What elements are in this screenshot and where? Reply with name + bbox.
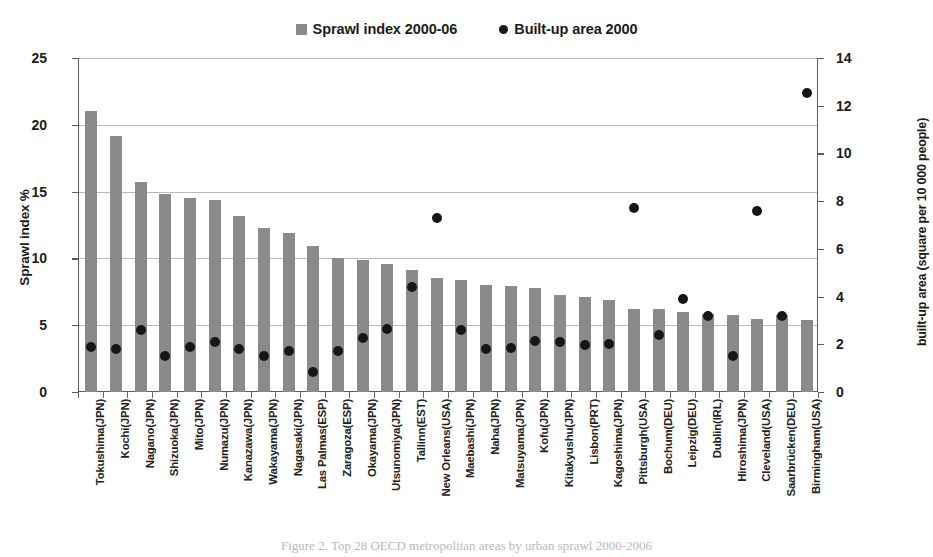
x-axis-tick-mark: [152, 392, 153, 398]
x-axis-tick-mark: [201, 392, 202, 398]
bar: [702, 314, 714, 392]
x-axis-tick-mark: [473, 392, 474, 398]
y-axis-right-tick-label: 8: [836, 194, 876, 208]
bar: [258, 228, 270, 392]
data-point-dot: [86, 342, 96, 352]
x-axis-tick-mark: [374, 392, 375, 398]
bar: [159, 194, 171, 392]
bar: [653, 309, 665, 392]
x-axis-tick-mark: [793, 392, 794, 398]
y-axis-left-tick-label: 15: [7, 185, 47, 199]
x-axis-category-label: New Orleans(USA): [441, 399, 452, 496]
y-axis-right-tick-mark: [818, 106, 824, 107]
legend-item-built-up-area: Built-up area 2000: [499, 22, 637, 37]
y-axis-right-tick-label: 0: [836, 385, 876, 399]
bar: [283, 233, 295, 392]
legend-label-sprawl-index: Sprawl index 2000-06: [313, 22, 458, 37]
y-axis-right-tick-mark: [818, 153, 824, 154]
x-axis-tick-mark: [423, 392, 424, 398]
x-axis-tick-mark: [769, 392, 770, 398]
bar: [233, 216, 245, 392]
data-point-dot: [432, 213, 442, 223]
y-axis-left-tick-label: 20: [7, 118, 47, 132]
data-point-dot: [777, 311, 787, 321]
data-point-dot: [678, 294, 688, 304]
x-axis-tick-mark: [596, 392, 597, 398]
bar: [480, 285, 492, 392]
legend-label-built-up-area: Built-up area 2000: [514, 22, 637, 37]
data-point-dot: [185, 342, 195, 352]
data-point-dot: [703, 311, 713, 321]
x-axis-tick-mark: [645, 392, 646, 398]
x-axis-category-label: Nagasaki(JPN): [293, 399, 304, 476]
y-axis-right-tick-mark: [818, 297, 824, 298]
y-axis-left-tick-label: 25: [7, 51, 47, 65]
bar: [184, 198, 196, 392]
bar: [431, 278, 443, 392]
x-axis-tick-mark: [547, 392, 548, 398]
x-axis-category-label: Kofu(JPN): [539, 399, 550, 453]
y-axis-left-tick-label: 0: [7, 385, 47, 399]
bar: [776, 315, 788, 392]
data-point-dot: [654, 330, 664, 340]
x-axis-category-label: Pittsburgh(USA): [638, 399, 649, 485]
x-axis-tick-mark: [448, 392, 449, 398]
bar-swatch-icon: [296, 24, 307, 35]
x-axis-category-label: Kanazawa(JPN): [243, 399, 254, 481]
y-axis-right-tick-mark: [818, 249, 824, 250]
y-axis-left-tick-mark: [72, 125, 78, 126]
bar: [357, 260, 369, 392]
x-axis-tick-mark: [670, 392, 671, 398]
x-axis-category-label: Utsunomiya(JPN): [391, 399, 402, 491]
sprawl-index-chart: Sprawl index 2000-06 Built-up area 2000 …: [0, 0, 933, 557]
x-axis-tick-mark: [818, 392, 819, 398]
data-point-dot: [407, 282, 417, 292]
x-axis-category-label: Bochum(DEU): [663, 399, 674, 474]
x-axis-tick-mark: [177, 392, 178, 398]
bar: [505, 286, 517, 392]
bar: [135, 182, 147, 392]
x-axis-tick-mark: [522, 392, 523, 398]
y-axis-right-title: built-up area (square per 10 000 people): [915, 92, 929, 372]
y-axis-left-tick-mark: [72, 58, 78, 59]
x-axis-category-label: Kitakyushu(JPN): [564, 399, 575, 487]
data-point-dot: [136, 325, 146, 335]
y-axis-left-tick-label: 5: [7, 318, 47, 332]
x-axis-tick-mark: [497, 392, 498, 398]
y-axis-left-tick-label: 10: [7, 251, 47, 265]
x-axis-tick-mark: [78, 392, 79, 398]
y-axis-left-tick-mark: [72, 192, 78, 193]
data-point-dot: [752, 206, 762, 216]
dot-swatch-icon: [499, 25, 508, 34]
data-point-dot: [481, 344, 491, 354]
plot-area: [78, 58, 818, 392]
x-axis-category-label: Dublin(IRL): [712, 399, 723, 458]
y-axis-left-tick-mark: [72, 325, 78, 326]
x-axis-category-label: Birmingham(USA): [811, 399, 822, 494]
y-axis-right-tick-label: 2: [836, 337, 876, 351]
x-axis-category-label: Kochi(JPN): [120, 399, 131, 458]
x-axis-category-label: Maebashi(JPN): [465, 399, 476, 478]
bar: [209, 200, 221, 392]
data-point-dot: [530, 336, 540, 346]
y-axis-right-tick-label: 10: [836, 146, 876, 160]
x-axis-category-label: Numazu(JPN): [219, 399, 230, 471]
x-axis-tick-mark: [695, 392, 696, 398]
x-axis-tick-mark: [103, 392, 104, 398]
x-axis-category-label: Hiroshima(JPN): [737, 399, 748, 482]
legend-item-sprawl-index: Sprawl index 2000-06: [296, 22, 458, 37]
data-point-dot: [728, 351, 738, 361]
x-axis-category-label: Wakayama(JPN): [268, 399, 279, 485]
x-axis-tick-mark: [127, 392, 128, 398]
chart-legend: Sprawl index 2000-06 Built-up area 2000: [0, 22, 933, 37]
y-axis-right-tick-mark: [818, 344, 824, 345]
y-axis-right-tick-mark: [818, 201, 824, 202]
x-axis-tick-mark: [325, 392, 326, 398]
x-axis-tick-mark: [571, 392, 572, 398]
bar: [801, 320, 813, 392]
x-axis-category-label: Lisbon(PRT): [589, 399, 600, 465]
y-axis-right-tick-label: 4: [836, 290, 876, 304]
x-axis-category-label: Tokushima(JPN): [95, 399, 106, 485]
x-axis-category-label: Okayama(JPN): [367, 399, 378, 477]
bar: [332, 258, 344, 392]
